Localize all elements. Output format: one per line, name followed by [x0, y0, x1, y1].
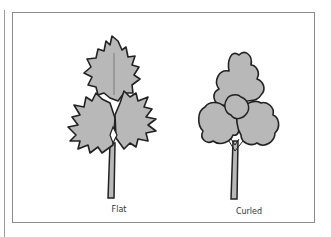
flat-parsley-leaf-illustration [58, 23, 178, 203]
flat-label: Flat [89, 205, 149, 214]
curled-label: Curled [219, 207, 279, 216]
curled-parsley-leaf-illustration [191, 41, 291, 201]
page-margin-line [4, 10, 5, 237]
illustration-frame: Flat Curled [12, 12, 315, 223]
